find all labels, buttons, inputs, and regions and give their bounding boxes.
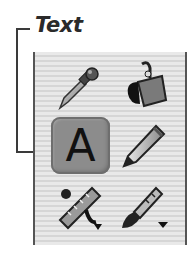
text-icon: A — [65, 124, 95, 168]
brush-tool[interactable] — [118, 182, 172, 232]
pencil-icon — [118, 118, 168, 170]
eyedropper-icon — [54, 64, 102, 112]
eyedropper-tool[interactable] — [54, 64, 102, 112]
paint-bucket-tool[interactable] — [122, 60, 172, 112]
text-tool[interactable]: A — [51, 117, 110, 174]
pencil-tool[interactable] — [118, 118, 168, 170]
submenu-triangle-icon — [94, 224, 102, 230]
submenu-triangle-icon — [158, 222, 168, 228]
measure-tool[interactable] — [56, 180, 106, 232]
callout-label: Text — [35, 13, 82, 37]
paint-bucket-icon — [122, 60, 172, 112]
brush-icon — [118, 182, 172, 232]
ruler-icon — [56, 180, 106, 232]
callout-line-top — [16, 28, 30, 30]
callout-line-vertical — [16, 28, 18, 153]
